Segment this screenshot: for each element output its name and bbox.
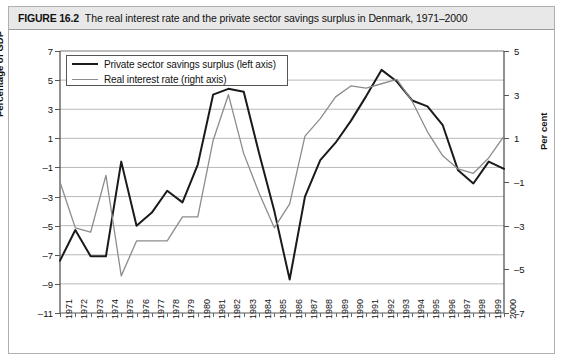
x-axis-tick-mark [305, 313, 306, 317]
left-axis-tick-label: 3 [27, 104, 53, 115]
x-axis-tick-label: 1981 [217, 299, 227, 319]
right-axis-tick-label: –1 [514, 177, 540, 188]
chart-legend: Private sector savings surplus (left axi… [66, 55, 288, 86]
x-axis-tick-mark [320, 313, 321, 317]
left-axis-tick-mark [55, 197, 60, 198]
x-axis-tick-mark [213, 313, 214, 317]
x-axis-tick-mark [121, 313, 122, 317]
left-axis-tick-mark [55, 80, 60, 81]
right-axis-tick-mark [504, 95, 509, 96]
x-axis-tick-mark [366, 313, 367, 317]
x-axis-tick-label: 1986 [294, 299, 304, 319]
x-axis-tick-label: 1972 [79, 299, 89, 319]
x-axis-tick-label: 1994 [416, 299, 426, 319]
x-axis-tick-mark [167, 313, 168, 317]
right-axis-tick-mark [504, 138, 509, 139]
x-axis-tick-mark [75, 313, 76, 317]
legend-swatch-savings [72, 63, 98, 65]
x-axis-tick-label: 1987 [309, 299, 319, 319]
left-axis-tick-mark [55, 167, 60, 168]
left-axis-tick-mark [55, 138, 60, 139]
x-axis-tick-label: 1985 [278, 299, 288, 319]
right-axis-tick-label: 5 [514, 46, 540, 57]
right-axis-tick-label: 1 [514, 133, 540, 144]
x-axis-tick-mark [443, 313, 444, 317]
right-axis-tick-label: –3 [514, 220, 540, 231]
x-axis-tick-label: 1983 [248, 299, 258, 319]
figure-title: The real interest rate and the private s… [85, 12, 468, 24]
x-axis-tick-mark [244, 313, 245, 317]
figure-page: FIGURE 16.2 The real interest rate and t… [0, 0, 565, 361]
x-axis-tick-label: 1992 [386, 299, 396, 319]
x-axis-tick-mark [228, 313, 229, 317]
x-axis-tick-label: 1995 [431, 299, 441, 319]
x-axis-tick-label: 1993 [401, 299, 411, 319]
x-axis-tick-mark [152, 313, 153, 317]
x-axis-tick-mark [504, 313, 505, 317]
x-axis-tick-label: 1971 [64, 299, 74, 319]
x-axis-tick-mark [106, 313, 107, 317]
x-axis-tick-mark [274, 313, 275, 317]
left-axis-title: Percentage of GDP [0, 0, 5, 117]
figure-caption-bar: FIGURE 16.2 The real interest rate and t… [9, 7, 554, 30]
left-axis-tick-mark [55, 109, 60, 110]
x-axis-tick-label: 1997 [462, 299, 472, 319]
left-axis-tick-label: –3 [27, 191, 53, 202]
x-axis-tick-label: 1973 [95, 299, 105, 319]
x-axis-tick-label: 1976 [141, 299, 151, 319]
x-axis-tick-label: 1989 [340, 299, 350, 319]
x-axis-tick-label: 1975 [125, 299, 135, 319]
x-axis-tick-label: 1990 [355, 299, 365, 319]
x-axis-tick-label: 1980 [202, 299, 212, 319]
left-axis-tick-label: 7 [27, 46, 53, 57]
legend-swatch-interest [72, 79, 98, 80]
legend-item-interest: Real interest rate (right axis) [72, 72, 287, 86]
x-axis-tick-label: 1988 [324, 299, 334, 319]
figure-number: FIGURE 16.2 [18, 12, 79, 24]
right-axis-tick-label: 3 [514, 89, 540, 100]
x-axis-tick-label: 1984 [263, 299, 273, 319]
x-axis-tick-label: 1991 [370, 299, 380, 319]
x-axis-tick-mark [60, 313, 61, 317]
x-axis-tick-label: 2000 [508, 299, 518, 319]
x-axis-tick-mark [489, 313, 490, 317]
right-axis-tick-mark [504, 51, 509, 52]
left-axis-tick-mark [55, 226, 60, 227]
x-axis-tick-mark [290, 313, 291, 317]
left-axis-tick-label: 5 [27, 75, 53, 86]
x-axis-tick-mark [397, 313, 398, 317]
x-axis-tick-label: 1996 [447, 299, 457, 319]
x-axis-tick-mark [182, 313, 183, 317]
left-axis-tick-label: –11 [27, 308, 53, 319]
x-axis-tick-label: 1999 [493, 299, 503, 319]
legend-item-savings: Private sector savings surplus (left axi… [72, 57, 287, 71]
left-axis-tick-mark [55, 255, 60, 256]
left-axis-tick-mark [55, 51, 60, 52]
right-axis-tick-mark [504, 182, 509, 183]
right-axis-tick-label: –5 [514, 264, 540, 275]
x-axis-tick-mark [412, 313, 413, 317]
x-axis-tick-mark [382, 313, 383, 317]
x-axis-tick-label: 1974 [110, 299, 120, 319]
right-axis-tick-mark [504, 269, 509, 270]
left-axis-tick-label: 1 [27, 133, 53, 144]
left-axis-tick-label: –5 [27, 220, 53, 231]
x-axis-tick-mark [351, 313, 352, 317]
x-axis-tick-mark [198, 313, 199, 317]
legend-label-interest: Real interest rate (right axis) [104, 74, 227, 85]
x-axis-tick-mark [91, 313, 92, 317]
left-axis-tick-label: –1 [27, 162, 53, 173]
x-axis-tick-label: 1982 [232, 299, 242, 319]
left-axis-tick-label: –9 [27, 278, 53, 289]
x-axis-tick-mark [473, 313, 474, 317]
left-axis-tick-label: –7 [27, 249, 53, 260]
x-axis-tick-label: 1978 [171, 299, 181, 319]
legend-label-savings: Private sector savings surplus (left axi… [104, 59, 276, 70]
right-axis-tick-mark [504, 226, 509, 227]
left-axis-tick-mark [55, 284, 60, 285]
x-axis-tick-label: 1998 [477, 299, 487, 319]
x-axis-tick-mark [336, 313, 337, 317]
x-axis-tick-mark [259, 313, 260, 317]
x-axis-tick-mark [458, 313, 459, 317]
x-axis-tick-label: 1977 [156, 299, 166, 319]
